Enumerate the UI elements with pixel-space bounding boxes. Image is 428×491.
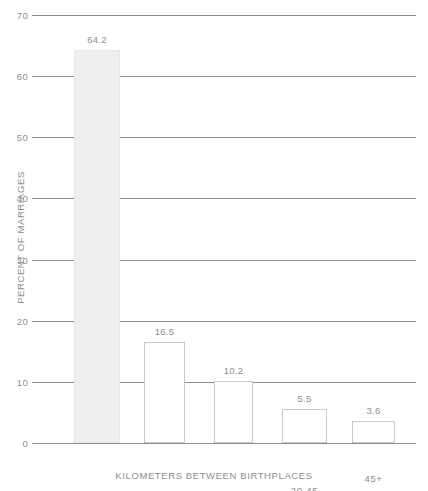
y-tick-mark-30 xyxy=(32,260,44,261)
y-axis-title: PERCENT OF MARRIAGES xyxy=(15,148,26,328)
plot-area: 010203040506070 64.2SAME PARISH16.51-810… xyxy=(44,15,416,443)
bar-value-label: 64.2 xyxy=(87,34,107,45)
y-tick-label-20: 20 xyxy=(17,315,28,326)
y-tick-mark-70 xyxy=(32,15,44,16)
y-tick-label-10: 10 xyxy=(17,376,28,387)
bar-value-label: 3.6 xyxy=(366,405,380,416)
bar-value-label: 16.5 xyxy=(155,326,175,337)
bar-1-8: 16.51-8 xyxy=(144,342,185,443)
y-tick-label-30: 30 xyxy=(17,254,28,265)
bar-45-: 3.645+ xyxy=(352,421,395,443)
x-category-label: 20-45 xyxy=(291,485,318,491)
y-tick-label-50: 50 xyxy=(17,132,28,143)
gridline-0 xyxy=(44,443,416,444)
x-axis-title: KILOMETERS BETWEEN BIRTHPLACES xyxy=(0,470,428,481)
y-tick-mark-60 xyxy=(32,76,44,77)
bar-20-45: 5.520-45 xyxy=(282,409,327,443)
y-tick-label-40: 40 xyxy=(17,193,28,204)
bar-same-parish: 64.2SAME PARISH xyxy=(74,50,120,443)
y-tick-mark-20 xyxy=(32,321,44,322)
y-tick-mark-10 xyxy=(32,382,44,383)
bar-chart-figure: PERCENT OF MARRIAGES 010203040506070 64.… xyxy=(0,0,428,491)
y-tick-mark-50 xyxy=(32,137,44,138)
y-tick-label-60: 60 xyxy=(17,71,28,82)
bar-value-label: 10.2 xyxy=(224,365,244,376)
bar-8-20: 10.28-20 xyxy=(214,381,253,443)
y-tick-mark-40 xyxy=(32,198,44,199)
gridline-70 xyxy=(44,15,416,16)
y-tick-label-70: 70 xyxy=(17,10,28,21)
y-tick-mark-0 xyxy=(32,443,44,444)
y-tick-label-0: 0 xyxy=(22,438,28,449)
bar-value-label: 5.5 xyxy=(297,393,311,404)
